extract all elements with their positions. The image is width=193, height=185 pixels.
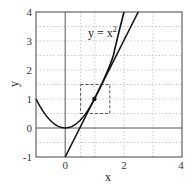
y-axis-label: y (7, 81, 21, 87)
y-tick-2: 2 (27, 64, 33, 76)
y-tick-0: 0 (27, 122, 33, 134)
x-tick-4: 4 (178, 159, 184, 171)
x-axis-label: x (105, 170, 111, 184)
tangency-point (92, 97, 96, 101)
y-tick-3: 3 (27, 35, 33, 47)
y-tick-4: 4 (27, 6, 33, 18)
curve-label: y = x2 (88, 25, 117, 40)
y-tick-1: 1 (27, 93, 33, 105)
x-tick-0: 0 (62, 159, 68, 171)
y-tick-neg1: -1 (23, 151, 32, 163)
chart: y = x2 4 3 2 1 0 -1 0 2 4 x y (0, 0, 193, 185)
x-tick-2: 2 (121, 159, 127, 171)
